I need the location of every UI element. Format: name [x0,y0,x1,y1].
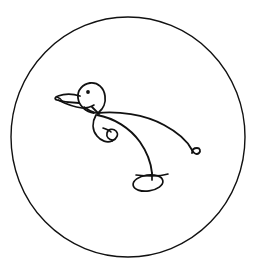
bird-sketch-illustration: Head domeUpper beakLower beak lineBeak t… [0,0,259,276]
artwork-canvas: Head domeUpper beakLower beak lineBeak t… [0,0,259,276]
background-rect [0,0,259,276]
eye-stroke: Eye dot [86,90,90,94]
